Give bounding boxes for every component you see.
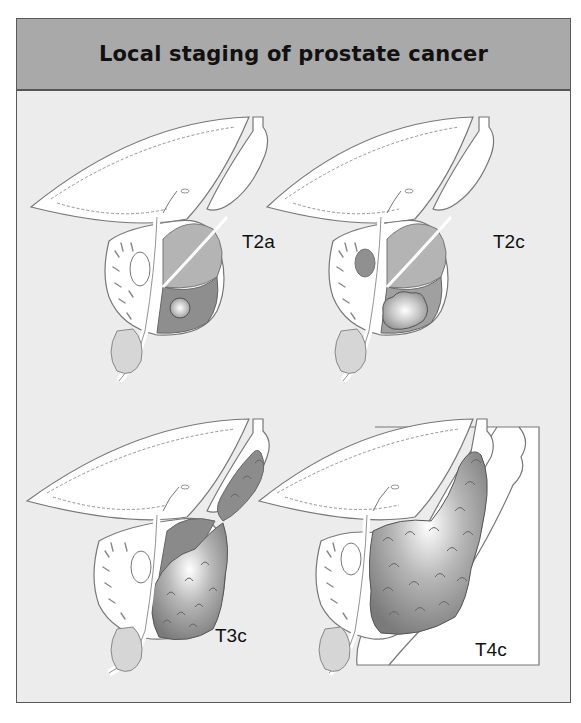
prostate-diagram-t4c [259, 401, 572, 701]
figure-frame: Local staging of prostate cancer [16, 18, 571, 703]
stage-label-t3c: T3c [215, 625, 247, 647]
figure-header: Local staging of prostate cancer [17, 19, 570, 91]
panel-t2c: T2c [259, 91, 572, 391]
stage-label-t2c: T2c [493, 231, 525, 253]
prostate-diagram-t2c [259, 91, 572, 391]
panel-t2a: T2a [17, 91, 294, 391]
figure-title: Local staging of prostate cancer [99, 42, 488, 66]
prostate-diagram-t3c [17, 401, 294, 701]
panel-t3c: T3c [17, 401, 294, 701]
panel-t4c: T4c [259, 401, 572, 701]
stage-label-t4c: T4c [475, 639, 507, 661]
